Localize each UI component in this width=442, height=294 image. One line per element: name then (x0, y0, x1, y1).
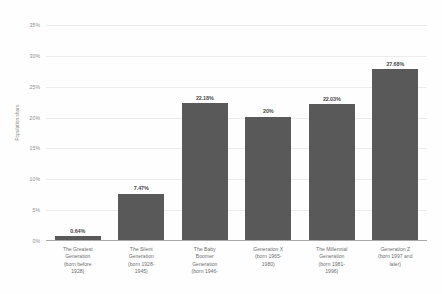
x-axis-category-label-line: The Silent (111, 246, 173, 253)
x-axis-category-label-line: (born 1981- (301, 261, 363, 268)
x-axis-category-label-line: Boomer (174, 253, 236, 260)
bar[interactable] (245, 117, 291, 240)
x-axis-category-label-line: The Millennial (301, 246, 363, 253)
x-axis-category-label-line: 1980) (238, 261, 300, 268)
x-axis-category-label-line: (born 1928- (111, 261, 173, 268)
x-axis-category-label-line: 1996) (301, 268, 363, 275)
bar-value-label: 7.47% (134, 185, 149, 191)
y-axis-tick-label: 15% (30, 145, 40, 151)
bar[interactable] (309, 104, 355, 240)
x-axis-category-label: The GreatestGeneration(born before1928) (46, 246, 110, 294)
x-axis-category-label: The SilentGeneration(born 1928-1945) (110, 246, 174, 294)
bar-group: 22.18% (173, 25, 237, 240)
bar-value-label: 22.03% (323, 96, 341, 102)
x-axis-category-label-line: later) (365, 261, 427, 268)
bar-group: 20% (237, 25, 301, 240)
x-axis-category-label-line: The Baby (174, 246, 236, 253)
x-axis-category-label-line: 1928) (47, 268, 109, 275)
x-axis-category-label-line: Generation X (238, 246, 300, 253)
x-axis-category-label-line: Generation (174, 261, 236, 268)
bar-chart: Population share 0%5%10%15%20%25%30%35% … (0, 0, 442, 294)
x-axis-category-label-line: Generation Z (365, 246, 427, 253)
y-axis-tick-label: 25% (30, 84, 40, 90)
x-axis-category-label-line: (born 1965- (238, 253, 300, 260)
x-axis-category-labels: The GreatestGeneration(born before1928)T… (46, 246, 427, 294)
x-axis-category-label-line: (born 1997 and (365, 253, 427, 260)
bar[interactable] (118, 194, 164, 240)
plot-area: 0%5%10%15%20%25%30%35% 0.64%7.47%22.18%2… (46, 25, 427, 241)
bar-group: 0.64% (46, 25, 110, 240)
x-axis-category-label-line: Generation (301, 253, 363, 260)
x-axis-category-label-line: 1945) (111, 268, 173, 275)
y-axis-tick-label: 30% (30, 53, 40, 59)
x-axis-category-label-line: (born before (47, 261, 109, 268)
y-axis-tick-label: 20% (30, 115, 40, 121)
y-axis-title: Population share (15, 83, 20, 163)
x-axis-category-label-line: (born 1946- (174, 268, 236, 275)
x-axis-category-label: The MillennialGeneration(born 1981-1996) (300, 246, 364, 294)
bar-group: 22.03% (300, 25, 364, 240)
bar-series: 0.64%7.47%22.18%20%22.03%27.68% (46, 25, 427, 240)
y-axis-tick-label: 10% (30, 176, 40, 182)
bar-value-label: 0.64% (70, 228, 85, 234)
bar[interactable] (55, 236, 101, 240)
y-axis-tick-label: 5% (33, 207, 41, 213)
x-axis-category-label-line: Generation (47, 253, 109, 260)
bar[interactable] (372, 69, 418, 240)
y-axis-tick-label: 35% (30, 22, 40, 28)
x-axis-category-label: The BabyBoomerGeneration(born 1946- (173, 246, 237, 294)
x-axis-category-label: Generation Z(born 1997 andlater) (364, 246, 428, 294)
y-axis-tick-label: 0% (33, 238, 41, 244)
x-axis-category-label-line: Generation (111, 253, 173, 260)
bar-value-label: 22.18% (196, 95, 214, 101)
bar-group: 7.47% (110, 25, 174, 240)
bar-value-label: 27.68% (386, 61, 404, 67)
x-axis-category-label-line: The Greatest (47, 246, 109, 253)
bar-value-label: 20% (263, 108, 274, 114)
bar[interactable] (182, 103, 228, 240)
bar-group: 27.68% (364, 25, 428, 240)
x-axis-category-label: Generation X(born 1965-1980) (237, 246, 301, 294)
